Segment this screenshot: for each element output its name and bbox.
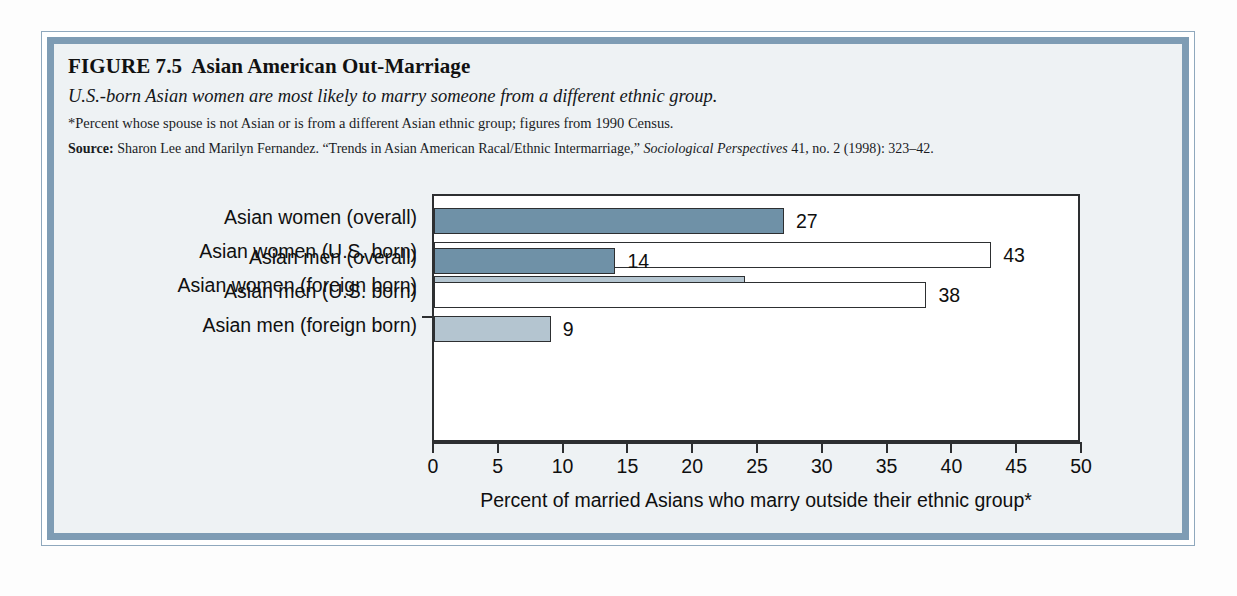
bar-white (434, 282, 926, 308)
source-citation: 41, no. 2 (1998): 323–42. (791, 141, 934, 156)
x-axis-tick-label: 20 (671, 455, 713, 478)
x-axis-tick (821, 442, 823, 453)
figure-page: FIGURE 7.5Asian American Out-Marriage U.… (0, 0, 1237, 596)
x-axis-tick-label: 30 (801, 455, 843, 478)
category-axis-labels: Asian women (overall)Asian women (U.S. b… (54, 192, 426, 442)
bar-dark (434, 208, 784, 234)
figure-source: Source: Sharon Lee and Marilyn Fernandez… (68, 141, 1168, 157)
x-axis-tick-label: 0 (412, 455, 454, 478)
bar-value-label: 14 (627, 248, 649, 274)
bar-chart: Asian women (overall)Asian women (U.S. b… (54, 192, 1182, 533)
bar-value-label: 9 (563, 316, 574, 342)
source-journal: Sociological Perspectives (643, 141, 787, 156)
x-axis-tick (886, 442, 888, 453)
x-axis-tick-label: 50 (1060, 455, 1102, 478)
category-label: Asian men (U.S. born) (54, 280, 426, 303)
x-axis-tick (756, 442, 758, 453)
source-authors: Sharon Lee and Marilyn Fernandez. “Trend… (117, 141, 640, 156)
category-label: Asian men (overall) (54, 246, 426, 269)
x-axis-tick (1015, 442, 1017, 453)
x-axis-tick (950, 442, 952, 453)
source-label: Source: (68, 141, 114, 156)
x-axis-tick (1080, 442, 1082, 453)
figure-title-text: Asian American Out-Marriage (191, 54, 470, 78)
x-axis-title: Percent of married Asians who marry outs… (432, 489, 1080, 512)
x-axis-tick-label: 45 (995, 455, 1037, 478)
bar-value-label: 43 (1003, 242, 1025, 268)
figure-title: FIGURE 7.5Asian American Out-Marriage (68, 54, 1168, 79)
plot-area: 27432414389 (432, 194, 1080, 442)
x-axis-tick-label: 15 (606, 455, 648, 478)
x-axis-tick-label: 40 (930, 455, 972, 478)
figure-content: FIGURE 7.5Asian American Out-Marriage U.… (54, 44, 1182, 533)
x-axis-tick (626, 442, 628, 453)
figure-header: FIGURE 7.5Asian American Out-Marriage U.… (68, 54, 1168, 157)
bar-dark (434, 248, 615, 274)
bar-value-label: 27 (796, 208, 818, 234)
x-axis-tick (432, 442, 434, 453)
figure-number: FIGURE 7.5 (68, 54, 182, 78)
figure-footnote: *Percent whose spouse is not Asian or is… (68, 115, 1168, 132)
x-axis-tick-label: 5 (477, 455, 519, 478)
bar-value-label: 38 (938, 282, 960, 308)
x-axis-tick-label: 35 (866, 455, 908, 478)
x-axis-tick (691, 442, 693, 453)
figure-subtitle: U.S.-born Asian women are most likely to… (68, 86, 1168, 107)
category-label: Asian men (foreign born) (54, 314, 426, 337)
x-axis-tick (497, 442, 499, 453)
x-axis-tick-label: 10 (542, 455, 584, 478)
x-axis-tick (562, 442, 564, 453)
x-axis-tick-label: 25 (736, 455, 778, 478)
category-label: Asian women (overall) (54, 206, 426, 229)
bar-light (434, 316, 551, 342)
